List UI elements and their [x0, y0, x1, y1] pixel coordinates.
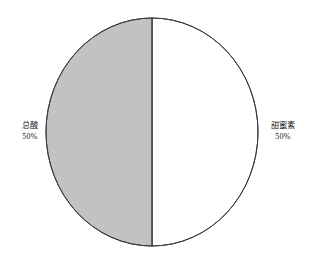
pie-label-tianmisu-name: 甜蜜素 — [263, 120, 303, 131]
pie-label-zongsuan-value: 50% — [14, 131, 46, 142]
pie-chart: 总酸 50% 甜蜜素 50% — [0, 0, 317, 266]
pie-slice-zongsuan[interactable] — [46, 18, 152, 246]
pie-label-zongsuan: 总酸 50% — [14, 120, 46, 142]
pie-label-zongsuan-name: 总酸 — [14, 120, 46, 131]
pie-label-tianmisu: 甜蜜素 50% — [263, 120, 303, 142]
pie-slice-tianmisu[interactable] — [152, 18, 258, 246]
pie-label-tianmisu-value: 50% — [263, 131, 303, 142]
